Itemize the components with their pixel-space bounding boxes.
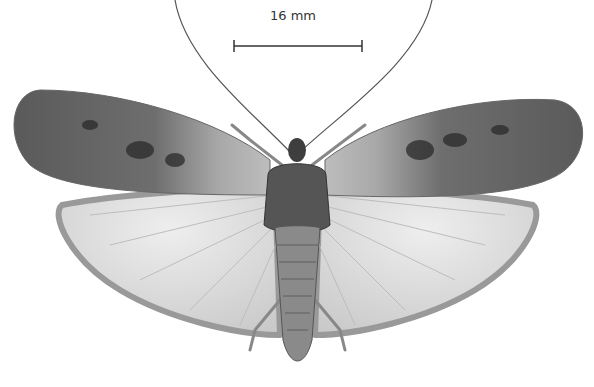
left-hindwing — [59, 185, 280, 335]
moth-illustration: 16 mm — [0, 0, 594, 387]
scale-bar — [234, 40, 362, 52]
scale-bar-label: 16 mm — [270, 8, 316, 23]
right-forewing — [325, 99, 583, 196]
moth-drawing — [0, 0, 594, 387]
right-hindwing — [315, 185, 536, 335]
